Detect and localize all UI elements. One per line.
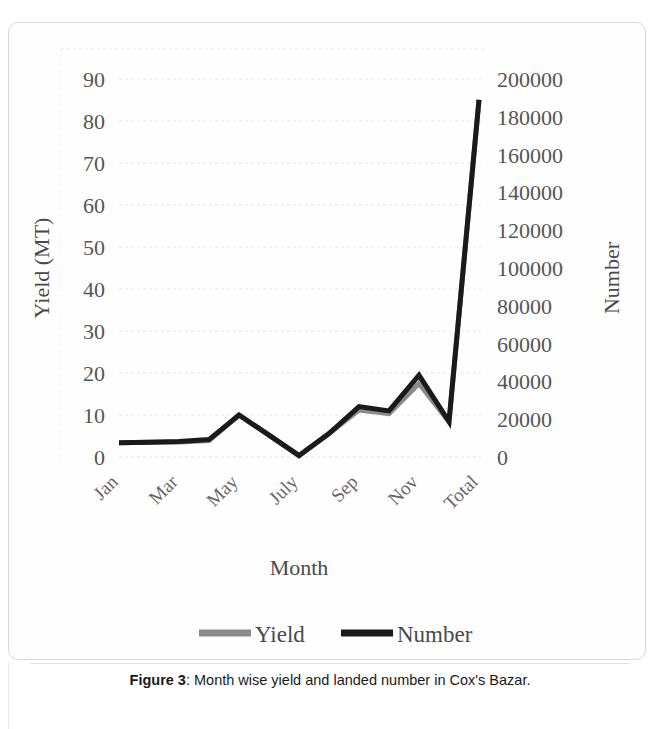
x-axis-tick-label: Sep <box>327 471 362 506</box>
x-axis-tick-label: Mar <box>145 471 183 509</box>
y-axis-left-tick-label: 20 <box>83 361 105 386</box>
y-axis-right-tick-label: 0 <box>497 445 508 470</box>
y-axis-left-tick-label: 10 <box>83 403 105 428</box>
y-axis-left-tick-label: 50 <box>83 235 105 260</box>
x-axis-tick-label: July <box>265 471 303 509</box>
y-axis-right-tick-label: 60000 <box>497 332 552 357</box>
y-axis-left-tick-label: 30 <box>83 319 105 344</box>
y-axis-right-tick-label: 20000 <box>497 407 552 432</box>
y-axis-left-tick-label: 60 <box>83 193 105 218</box>
y-axis-right-tick-label: 100000 <box>497 256 563 281</box>
series-lines <box>119 100 479 456</box>
chart-legend: YieldNumber <box>199 622 473 647</box>
x-axis-ticks: JanMarMayJulySepNovTotal <box>89 471 482 514</box>
series-line-number <box>119 100 479 456</box>
y-axis-left-tick-label: 0 <box>94 445 105 470</box>
y-axis-right-tick-label: 120000 <box>497 218 563 243</box>
y-axis-right-tick-label: 200000 <box>497 67 563 92</box>
series-line-yield <box>119 100 479 455</box>
figure-caption-separator: : <box>186 672 194 688</box>
figure-caption: Figure 3: Month wise yield and landed nu… <box>0 672 660 688</box>
figure-caption-text: Month wise yield and landed number in Co… <box>194 672 530 688</box>
chart-svg: 0102030405060708090 02000040000600008000… <box>9 23 647 661</box>
y-axis-left-tick-label: 70 <box>83 151 105 176</box>
x-axis-tick-label: May <box>202 471 242 511</box>
y-axis-right-tick-label: 140000 <box>497 180 563 205</box>
caption-divider <box>30 663 630 664</box>
figure-caption-prefix: Figure 3 <box>130 672 186 688</box>
chart-plot-area: 0102030405060708090 02000040000600008000… <box>9 23 647 661</box>
x-axis-tick-label: Nov <box>384 471 422 509</box>
y-axis-right-tick-label: 160000 <box>497 143 563 168</box>
y-axis-right-title: Number <box>599 241 624 314</box>
y-axis-right-tick-label: 80000 <box>497 294 552 319</box>
y-axis-right-ticks: 0200004000060000800001000001200001400001… <box>497 67 563 470</box>
gridlines <box>61 49 485 463</box>
y-axis-left-tick-label: 90 <box>83 67 105 92</box>
y-axis-left-tick-label: 80 <box>83 109 105 134</box>
y-axis-left-tick-label: 40 <box>83 277 105 302</box>
x-axis-tick-label: Jan <box>89 471 122 504</box>
y-axis-left-ticks: 0102030405060708090 <box>83 67 105 470</box>
y-axis-right-tick-label: 180000 <box>497 105 563 130</box>
x-axis-title: Month <box>270 555 329 580</box>
figure-card: 0102030405060708090 02000040000600008000… <box>8 22 646 660</box>
y-axis-right-tick-label: 40000 <box>497 369 552 394</box>
legend-label-yield: Yield <box>255 622 305 647</box>
legend-label-number: Number <box>397 622 473 647</box>
y-axis-left-title: Yield (MT) <box>29 218 54 319</box>
x-axis-tick-label: Total <box>440 471 482 513</box>
